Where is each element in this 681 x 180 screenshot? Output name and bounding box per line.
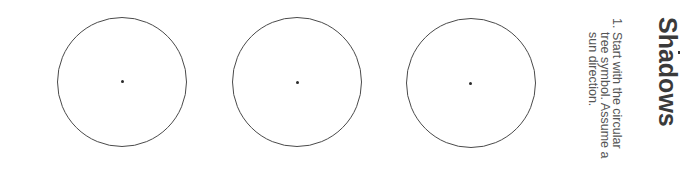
tree-center-dot-1 (121, 80, 124, 83)
worksheet-page: 1. Start with the circular tree symbol. … (0, 0, 681, 180)
page-heading: Shadows (655, 17, 680, 127)
tree-center-dot-2 (296, 81, 299, 84)
step-text-line-2: tree symbol. Assume a (599, 18, 611, 158)
stray-mark (678, 51, 680, 54)
tree-center-dot-3 (469, 82, 472, 85)
step-number: 1. (610, 18, 624, 28)
instruction-line-1: 1. Start with the circular (611, 18, 623, 158)
instruction-step-1: 1. Start with the circular tree symbol. … (587, 18, 623, 158)
step-text-line-1: Start with the circular (610, 32, 624, 149)
